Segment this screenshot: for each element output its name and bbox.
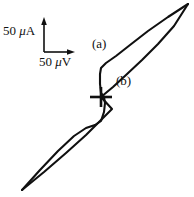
axis-label-current-value: 50 (3, 23, 19, 38)
axis-label-voltage-unit: V (62, 54, 71, 69)
vertical-axis-arrowhead-icon (41, 17, 47, 25)
axis-label-voltage: 50 μV (39, 55, 71, 68)
iv-curve-figure: 50 μA 50 μV (a) (b) (0, 0, 194, 197)
axis-label-current-unit: A (26, 23, 35, 38)
caption-sliver (0, 191, 194, 197)
axis-label-current: 50 μA (3, 24, 35, 37)
curve-label-a: (a) (92, 37, 106, 50)
axis-label-voltage-value: 50 (39, 54, 55, 69)
axes-scale-key (41, 17, 75, 55)
curve-label-b: (b) (116, 74, 131, 87)
